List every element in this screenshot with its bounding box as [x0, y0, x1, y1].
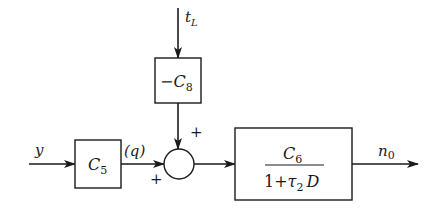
sum-sign-left: +: [150, 170, 163, 188]
block-diagram: tL −C8 + y C5 (q) + C6 1+τ2D n0: [0, 0, 448, 210]
tf-denominator: 1+τ2D: [264, 172, 319, 194]
input-label: y: [34, 141, 44, 159]
summing-junction: [164, 149, 194, 179]
intermediate-label: (q): [124, 142, 145, 160]
output-label: n0: [378, 142, 395, 162]
sum-sign-top: +: [190, 123, 203, 141]
disturbance-label: tL: [185, 8, 198, 28]
